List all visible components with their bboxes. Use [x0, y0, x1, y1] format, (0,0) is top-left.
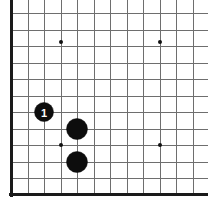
stone-1-label: 1 — [41, 107, 47, 119]
stone-3[interactable] — [67, 152, 88, 173]
star-point-lower-left — [59, 143, 63, 147]
stone-2[interactable] — [67, 119, 88, 140]
star-point-upper-left — [59, 40, 63, 44]
go-board-canvas[interactable]: 1 — [0, 0, 208, 206]
go-board-diagram: 1 — [0, 0, 208, 206]
stone-2-disc[interactable] — [67, 119, 88, 140]
star-point-lower-right — [158, 143, 162, 147]
stone-3-disc[interactable] — [67, 152, 88, 173]
star-point-upper-right — [158, 40, 162, 44]
grid-lines — [11, 0, 208, 196]
board-edges — [10, 0, 208, 196]
stone-1[interactable]: 1 — [35, 103, 54, 122]
